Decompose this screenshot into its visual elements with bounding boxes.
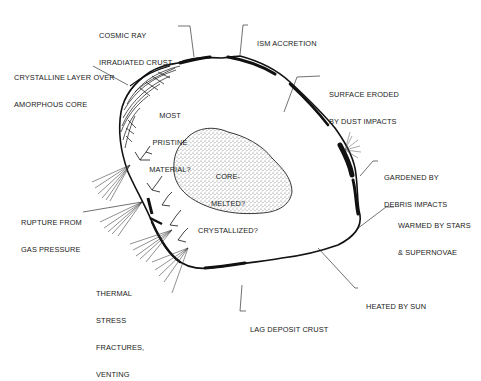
label-surface-eroded: SURFACE ERODED BY DUST IMPACTS <box>329 72 399 144</box>
label-crystalline-layer: CRYSTALLINE LAYER OVER AMORPHOUS CORE <box>14 55 115 127</box>
label-lag-deposit: LAG DEPOSIT CRUST <box>250 307 328 352</box>
label-ism-accretion: ISM ACCRETION <box>257 21 317 66</box>
label-most-pristine: MOST PRISTINE MATERIAL? <box>140 93 200 192</box>
label-core: CORE- MELTED? CRYSTALLIZED? <box>197 154 259 253</box>
label-thermal-stress: THERMAL STRESS FRACTURES, VENTING <box>96 271 144 381</box>
label-rupture: RUPTURE FROM GAS PRESSURE <box>21 200 82 272</box>
label-heated-by-sun: HEATED BY SUN <box>366 284 426 329</box>
label-warmed: WARMED BY STARS & SUPERNOVAE <box>398 203 471 275</box>
